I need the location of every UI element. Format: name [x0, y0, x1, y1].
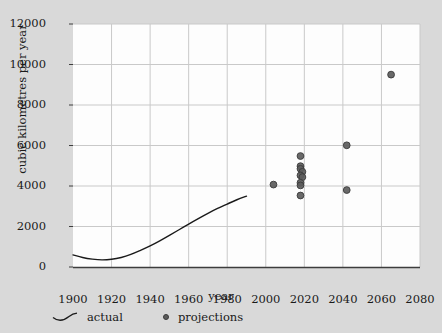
- chart-figure: cubic kilometres per year 02000400060008…: [0, 0, 442, 333]
- data-point: [297, 182, 304, 189]
- y-tick-label: 4000: [0, 180, 46, 192]
- chart-legend: actual projections: [0, 306, 442, 328]
- x-axis-title: year: [0, 289, 442, 303]
- y-tick-label: 6000: [0, 140, 46, 152]
- legend-label-actual: actual: [87, 310, 123, 324]
- legend-item-actual: actual: [52, 306, 123, 328]
- data-point: [297, 153, 304, 160]
- y-tick-label: 12000: [0, 18, 46, 30]
- actual-line-series: [73, 196, 247, 260]
- y-tick-label: 2000: [0, 221, 46, 233]
- legend-item-projections: projections: [163, 306, 243, 328]
- projections-point-series: [270, 71, 394, 199]
- circle-icon: [163, 314, 169, 320]
- data-point: [297, 192, 304, 199]
- line-icon: [52, 311, 78, 323]
- data-point: [343, 187, 350, 194]
- y-tick-label: 0: [0, 261, 46, 273]
- y-tick-label: 10000: [0, 59, 46, 71]
- y-tick-label: 8000: [0, 99, 46, 111]
- plot-area: 020004000600080001000012000 190019201940…: [73, 24, 420, 267]
- actual-curve: [73, 196, 247, 260]
- data-point: [270, 181, 277, 188]
- data-point: [343, 142, 350, 149]
- legend-label-projections: projections: [178, 310, 243, 324]
- gridlines: [73, 24, 420, 267]
- plot-canvas: [73, 24, 420, 267]
- data-point: [388, 71, 395, 78]
